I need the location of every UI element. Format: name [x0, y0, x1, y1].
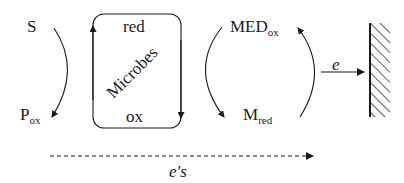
- mediator-oxidation-arrow: [298, 28, 315, 117]
- product-label: Pox: [20, 106, 40, 123]
- electrode: [370, 23, 390, 117]
- mediator-reduction-arrow: [205, 27, 224, 117]
- mediator-oxidized-label: MEDox: [230, 18, 279, 35]
- electron-flow-label: e's: [169, 163, 187, 180]
- microbes-oxidized-label: ox: [126, 108, 143, 125]
- electron-label: e: [332, 56, 340, 73]
- mediator-reduced-label: Mred: [243, 106, 272, 123]
- microbial-fuel-cell-diagram: [0, 0, 404, 183]
- substrate-label: S: [27, 18, 36, 35]
- substrate-oxidation-arrow: [52, 28, 68, 117]
- microbes-reduced-label: red: [123, 18, 145, 35]
